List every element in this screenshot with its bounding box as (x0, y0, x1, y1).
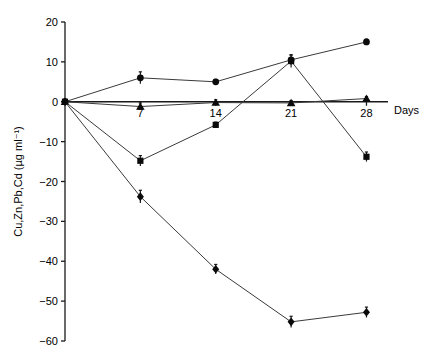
data-point-circle (212, 78, 219, 85)
y-tick-label: −50 (39, 295, 58, 307)
data-series-group (61, 39, 371, 328)
data-point-square (363, 154, 369, 160)
y-tick-label: −20 (39, 176, 58, 188)
data-point-square (288, 58, 294, 64)
y-tick-label: 10 (46, 56, 58, 68)
data-point-diamond (288, 318, 295, 327)
line-chart: 20100−10−20−30−40−50−60 7142128 DaysCu,Z… (0, 0, 421, 361)
data-point-diamond (363, 308, 370, 317)
x-tick-label: 21 (285, 107, 297, 119)
y-tick-label: −40 (39, 255, 58, 267)
y-tick-label: 0 (52, 96, 58, 108)
data-point-square (137, 158, 143, 164)
x-axis-title: Days (394, 104, 420, 116)
series-line-Cu (65, 42, 366, 102)
data-point-triangle (362, 94, 371, 101)
x-tick-label: 14 (210, 107, 222, 119)
y-tick-label: −60 (39, 335, 58, 347)
data-point-circle (137, 74, 144, 81)
y-tick-label: 20 (46, 16, 58, 28)
data-point-circle (363, 39, 370, 46)
y-axis: 20100−10−20−30−40−50−60 (39, 16, 65, 347)
chart-figure: 20100−10−20−30−40−50−60 7142128 DaysCu,Z… (0, 0, 421, 361)
y-tick-label: −30 (39, 215, 58, 227)
series-Cd (61, 97, 370, 327)
y-tick-label: −10 (39, 136, 58, 148)
y-axis-title: Cu,Zn,Pb,Cd (µg ml⁻¹) (12, 126, 24, 237)
series-Cu (62, 39, 370, 106)
x-tick-label: 28 (360, 107, 372, 119)
data-point-square (213, 122, 219, 128)
series-line-Cd (65, 102, 366, 322)
